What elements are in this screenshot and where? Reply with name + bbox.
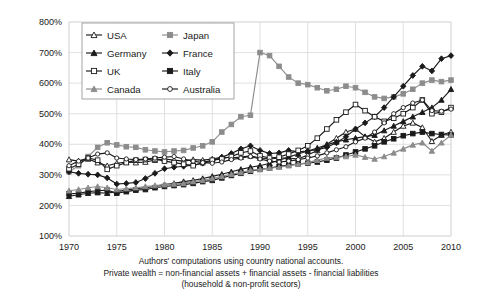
y-tick-label: 500% [39, 109, 62, 119]
y-tick-label: 100% [39, 231, 62, 241]
legend-label: Germany [107, 48, 147, 59]
caption-line-2: Private wealth = non-financial assets + … [0, 268, 482, 280]
y-tick-label: 700% [39, 48, 62, 58]
x-tick-label: 2005 [393, 242, 413, 252]
x-tick-label: 1985 [202, 242, 222, 252]
caption-line-1: Authors' computations using country nati… [0, 256, 482, 268]
chart-legend: USAJapanGermanyFranceUKItalyCanadaAustra… [82, 23, 234, 99]
legend-label: Italy [183, 66, 201, 77]
x-tick-label: 1980 [154, 242, 174, 252]
y-tick-label: 300% [39, 170, 62, 180]
y-tick-label: 400% [39, 139, 62, 149]
x-tick-label: 1995 [298, 242, 318, 252]
legend-label: Canada [107, 84, 141, 95]
x-tick-label: 2000 [345, 242, 365, 252]
x-tick-label: 1990 [250, 242, 270, 252]
chart-caption: Authors' computations using country nati… [0, 256, 482, 291]
legend-label: USA [107, 30, 127, 41]
y-tick-label: 600% [39, 78, 62, 88]
y-axis-tick-labels: 100%200%300%400%500%600%700%800% [39, 17, 62, 241]
x-tick-label: 1970 [59, 242, 79, 252]
legend-label: France [183, 48, 213, 59]
y-tick-label: 800% [39, 17, 62, 27]
private-wealth-chart-figure: 100%200%300%400%500%600%700%800% 1970197… [0, 0, 482, 305]
legend-label: UK [107, 66, 121, 77]
x-axis-tick-labels: 197019751980198519901995200020052010 [59, 242, 461, 252]
legend-label: Japan [183, 30, 209, 41]
y-tick-label: 200% [39, 201, 62, 211]
x-tick-label: 2010 [441, 242, 461, 252]
x-tick-label: 1975 [107, 242, 127, 252]
caption-line-3: (household & non-profit sectors) [0, 279, 482, 291]
legend-label: Australia [183, 84, 221, 95]
